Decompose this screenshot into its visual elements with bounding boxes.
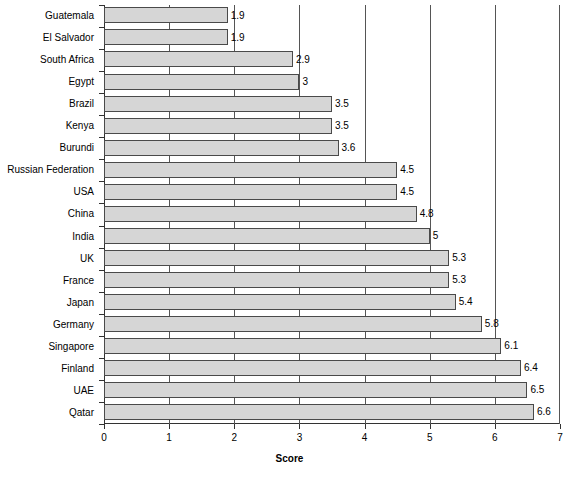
bar[interactable] bbox=[104, 118, 332, 134]
x-axis-tick-label: 5 bbox=[415, 432, 445, 443]
y-axis-tick-label: Japan bbox=[67, 292, 94, 314]
bar-value-label: 3.6 bbox=[342, 139, 356, 156]
bar-value-label: 6.1 bbox=[504, 337, 518, 354]
bar[interactable] bbox=[104, 404, 534, 420]
y-axis-tick-label: South Africa bbox=[40, 49, 94, 71]
bar-row: 3.5 bbox=[104, 115, 560, 137]
y-axis-tick-label: Burundi bbox=[60, 137, 94, 159]
x-axis-tick-mark bbox=[365, 424, 366, 429]
bar[interactable] bbox=[104, 338, 501, 354]
bar[interactable] bbox=[104, 7, 228, 23]
bar[interactable] bbox=[104, 29, 228, 45]
y-axis-tick-label: Finland bbox=[61, 358, 94, 380]
bar[interactable] bbox=[104, 162, 397, 178]
y-axis-category-labels: GuatemalaEl SalvadorSouth AfricaEgyptBra… bbox=[0, 5, 104, 424]
y-axis-tick-label: Kenya bbox=[66, 115, 94, 137]
bar-row: 5.4 bbox=[104, 292, 560, 314]
y-axis-tick-label: UAE bbox=[73, 380, 94, 402]
y-axis-tick-label: India bbox=[72, 226, 94, 248]
bar-value-label: 4.5 bbox=[400, 161, 414, 178]
x-axis-tick-mark bbox=[234, 424, 235, 429]
bar-value-label: 1.9 bbox=[231, 7, 245, 24]
bar[interactable] bbox=[104, 250, 449, 266]
bar-row: 3.6 bbox=[104, 137, 560, 159]
y-axis-tick-label: France bbox=[63, 270, 94, 292]
bar-value-label: 3.5 bbox=[335, 95, 349, 112]
x-axis-tick-mark bbox=[104, 424, 105, 429]
y-axis-tick-label: UK bbox=[80, 248, 94, 270]
bar-row: 4.5 bbox=[104, 181, 560, 203]
y-axis-tick-label: Germany bbox=[53, 314, 94, 336]
bar-value-label: 4.5 bbox=[400, 183, 414, 200]
bar[interactable] bbox=[104, 228, 430, 244]
bar-row: 2.9 bbox=[104, 49, 560, 71]
y-axis-tick-label: Brazil bbox=[69, 93, 94, 115]
x-axis: Score 01234567 bbox=[0, 424, 579, 480]
x-axis-tick-label: 0 bbox=[89, 432, 119, 443]
x-axis-tick-label: 4 bbox=[350, 432, 380, 443]
bar[interactable] bbox=[104, 96, 332, 112]
bar-value-label: 2.9 bbox=[296, 51, 310, 68]
y-axis-tick-label: Guatemala bbox=[45, 5, 94, 27]
x-axis-tick-label: 3 bbox=[284, 432, 314, 443]
bar-value-label: 3 bbox=[302, 73, 308, 90]
bar-row: 3 bbox=[104, 71, 560, 93]
bar-row: 5 bbox=[104, 226, 560, 248]
bar-row: 3.5 bbox=[104, 93, 560, 115]
bar-value-label: 5.3 bbox=[452, 271, 466, 288]
x-axis-tick-label: 7 bbox=[545, 432, 575, 443]
bar-row: 6.5 bbox=[104, 380, 560, 402]
y-axis-tick-label: China bbox=[68, 203, 94, 225]
bar-row: 1.9 bbox=[104, 27, 560, 49]
bar-row: 5.3 bbox=[104, 248, 560, 270]
bar-value-label: 3.5 bbox=[335, 117, 349, 134]
bar-row: 5.8 bbox=[104, 314, 560, 336]
bar[interactable] bbox=[104, 140, 339, 156]
x-axis-tick-label: 1 bbox=[154, 432, 184, 443]
bar-row: 4.8 bbox=[104, 203, 560, 225]
bar[interactable] bbox=[104, 316, 482, 332]
bar-row: 6.4 bbox=[104, 358, 560, 380]
y-axis-tick-label: Egypt bbox=[68, 71, 94, 93]
bar-row: 6.1 bbox=[104, 336, 560, 358]
y-axis-tick-label: Singapore bbox=[48, 336, 94, 358]
bar-value-label: 6.6 bbox=[537, 403, 551, 420]
bar-row: 6.6 bbox=[104, 402, 560, 424]
y-axis-tick-label: USA bbox=[73, 181, 94, 203]
x-axis-tick-mark bbox=[169, 424, 170, 429]
bar-row: 1.9 bbox=[104, 5, 560, 27]
y-axis-tick-label: El Salvador bbox=[43, 27, 94, 49]
bar-value-label: 1.9 bbox=[231, 29, 245, 46]
bar-value-label: 5 bbox=[433, 227, 439, 244]
x-axis-tick-mark bbox=[430, 424, 431, 429]
x-axis-title: Score bbox=[0, 453, 579, 464]
y-axis-tick-label: Russian Federation bbox=[7, 159, 94, 181]
plot-area: 1.91.92.933.53.53.64.54.54.855.35.35.45.… bbox=[104, 5, 560, 424]
bar[interactable] bbox=[104, 382, 527, 398]
x-axis-tick-label: 6 bbox=[480, 432, 510, 443]
bar-value-label: 6.4 bbox=[524, 359, 538, 376]
bar-value-label: 5.3 bbox=[452, 249, 466, 266]
bar[interactable] bbox=[104, 74, 299, 90]
bar[interactable] bbox=[104, 272, 449, 288]
bar-row: 5.3 bbox=[104, 270, 560, 292]
bar[interactable] bbox=[104, 206, 417, 222]
bar-row: 4.5 bbox=[104, 159, 560, 181]
x-axis-tick-mark bbox=[560, 424, 561, 429]
bar-value-label: 4.8 bbox=[420, 205, 434, 222]
bar[interactable] bbox=[104, 360, 521, 376]
bar-value-label: 6.5 bbox=[530, 381, 544, 398]
y-axis-tick-label: Qatar bbox=[69, 402, 94, 424]
bar[interactable] bbox=[104, 51, 293, 67]
bar-value-label: 5.8 bbox=[485, 315, 499, 332]
bar-value-label: 5.4 bbox=[459, 293, 473, 310]
bar[interactable] bbox=[104, 184, 397, 200]
bar-chart: GuatemalaEl SalvadorSouth AfricaEgyptBra… bbox=[0, 0, 579, 480]
x-axis-tick-mark bbox=[495, 424, 496, 429]
x-axis-tick-mark bbox=[299, 424, 300, 429]
bar[interactable] bbox=[104, 294, 456, 310]
x-axis-tick-label: 2 bbox=[219, 432, 249, 443]
